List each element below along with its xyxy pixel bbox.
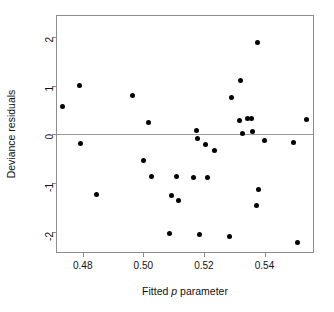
data-point xyxy=(78,141,83,146)
y-axis-tick-label: -1 xyxy=(45,183,55,192)
zero-reference-line xyxy=(57,134,313,135)
x-axis-tick-label: 0.54 xyxy=(255,260,274,271)
y-axis-title: Deviance residuals xyxy=(4,15,18,253)
data-point xyxy=(291,140,296,145)
data-point xyxy=(195,136,200,141)
data-point xyxy=(141,158,146,163)
data-point xyxy=(146,120,151,125)
x-axis-tick xyxy=(265,252,266,257)
data-point xyxy=(176,198,181,203)
data-point xyxy=(194,128,199,133)
data-point xyxy=(227,234,232,239)
y-axis-tick-label: 1 xyxy=(45,86,55,92)
data-point xyxy=(205,175,210,180)
data-point xyxy=(77,83,82,88)
y-axis-tick-label: -2 xyxy=(45,232,55,241)
x-axis-tick-label: 0.52 xyxy=(194,260,213,271)
x-axis-title: Fitted p parameter xyxy=(56,285,314,297)
data-point xyxy=(167,231,172,236)
data-point xyxy=(240,131,245,136)
x-axis-tick-label: 0.50 xyxy=(134,260,153,271)
data-point xyxy=(212,148,217,153)
data-point xyxy=(249,116,254,121)
data-point xyxy=(60,104,65,109)
x-axis-tick-label: 0.48 xyxy=(73,260,92,271)
x-axis-title-pre: Fitted xyxy=(142,285,171,297)
data-point xyxy=(229,95,234,100)
x-axis-title-post: parameter xyxy=(177,285,228,297)
plot-area: 210-1-2 0.480.500.520.54 xyxy=(56,15,314,253)
data-point xyxy=(174,174,179,179)
data-point xyxy=(262,138,267,143)
data-point xyxy=(94,192,99,197)
data-point xyxy=(197,232,202,237)
data-point xyxy=(255,40,260,45)
data-point xyxy=(250,129,255,134)
y-axis-title-text: Deviance residuals xyxy=(5,90,17,179)
data-point xyxy=(304,117,309,122)
data-point xyxy=(238,78,243,83)
y-axis-tick-label: 0 xyxy=(45,134,55,140)
scatter-plot-figure: 210-1-2 0.480.500.520.54 Deviance residu… xyxy=(0,0,334,312)
x-axis-tick xyxy=(204,252,205,257)
data-point xyxy=(169,193,174,198)
x-axis-tick xyxy=(83,252,84,257)
data-point xyxy=(149,174,154,179)
data-point xyxy=(191,175,196,180)
data-point xyxy=(254,203,259,208)
y-axis-tick-label: 2 xyxy=(45,37,55,43)
data-point xyxy=(237,118,242,123)
data-point xyxy=(130,93,135,98)
data-point xyxy=(256,187,261,192)
data-point xyxy=(295,240,300,245)
x-axis-tick xyxy=(143,252,144,257)
data-point xyxy=(203,142,208,147)
